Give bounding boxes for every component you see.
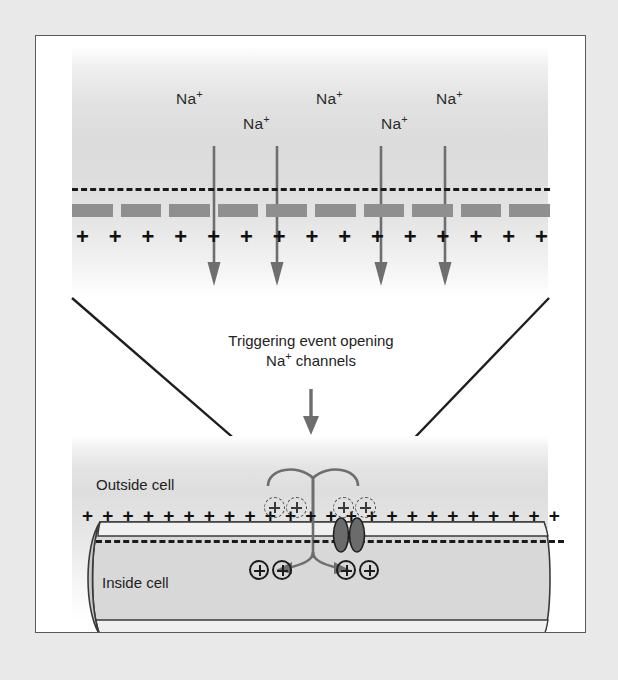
positive-charge-symbol: + (535, 226, 548, 248)
na-ion-label: Na+ (316, 90, 343, 108)
membrane-band-top (72, 204, 550, 217)
membrane-segment (72, 204, 113, 217)
positive-charge-symbol: + (549, 506, 560, 525)
trigger-event-arrow (298, 389, 324, 437)
positive-charge-symbol: + (488, 506, 499, 525)
positive-charge-symbol: + (468, 506, 479, 525)
sodium-influx-arrow (374, 146, 388, 288)
positive-charge-symbol: + (82, 506, 93, 525)
positive-charge-symbol: + (109, 226, 122, 248)
na-ion-label: Na+ (381, 115, 408, 133)
trigger-event-caption: Triggering event opening Na+ channels (166, 331, 456, 372)
cell-inner-membrane-strip (96, 620, 548, 633)
top-membrane-negative-dash-line (72, 188, 550, 191)
na-ion-label: Na+ (176, 90, 203, 108)
membrane-segment (169, 204, 210, 217)
positive-charge-symbol: + (273, 226, 286, 248)
positive-charge-symbol: + (163, 506, 174, 525)
magnified-membrane-panel (72, 46, 548, 298)
membrane-segment (266, 204, 307, 217)
membrane-segment (461, 204, 502, 217)
positive-charge-symbol: + (386, 506, 397, 525)
outside-cell-label: Outside cell (96, 476, 174, 493)
na-ion-label: Na+ (436, 90, 463, 108)
membrane-segment (412, 204, 453, 217)
membrane-segment (364, 204, 405, 217)
sodium-ion-outside (333, 497, 354, 518)
positive-charge-symbol: + (502, 226, 515, 248)
positive-charge-symbol: + (437, 226, 450, 248)
positive-charge-symbol: + (338, 226, 351, 248)
trigger-caption-line-2: Na+ channels (166, 351, 456, 371)
positive-charge-symbol: + (407, 506, 418, 525)
positive-charge-symbol: + (469, 226, 482, 248)
positive-charge-symbol: + (102, 506, 113, 525)
sodium-ion-outside (286, 497, 307, 518)
positive-charge-symbol: + (204, 506, 215, 525)
sodium-influx-arrow (270, 146, 284, 288)
sodium-channel-protein (332, 517, 366, 553)
positive-charge-symbol: + (305, 506, 316, 525)
positive-charge-symbol: + (244, 506, 255, 525)
positive-charge-symbol: + (207, 226, 220, 248)
positive-charge-symbol: + (183, 506, 194, 525)
membrane-segment (218, 204, 259, 217)
positive-charge-symbol: + (404, 226, 417, 248)
sodium-ion-inside (336, 560, 356, 580)
positive-charge-symbol: + (371, 226, 384, 248)
positive-charge-symbol: + (143, 506, 154, 525)
positive-charge-symbol: + (529, 506, 540, 525)
figure-frame: Na+ Na+ Na+ Na+ Na+ (35, 35, 586, 633)
positive-charge-symbol: + (240, 226, 253, 248)
positive-charge-symbol: + (224, 506, 235, 525)
sodium-ion-outside (355, 497, 376, 518)
membrane-segment (121, 204, 162, 217)
sodium-ion-inside (272, 560, 292, 580)
sodium-ion-inside (249, 560, 269, 580)
positive-charge-symbol: + (174, 226, 187, 248)
sodium-influx-arrow (207, 146, 221, 288)
membrane-segment (509, 204, 550, 217)
positive-charge-symbol: + (305, 226, 318, 248)
sodium-ion-inside (359, 560, 379, 580)
positive-charge-symbol: + (76, 226, 89, 248)
positive-charge-symbol: + (142, 226, 155, 248)
positive-charge-symbol: + (447, 506, 458, 525)
na-ion-label: Na+ (243, 115, 270, 133)
top-membrane-positive-charge-row: +++++++++++++++ (76, 226, 548, 248)
positive-charge-symbol: + (123, 506, 134, 525)
trigger-caption-line-1: Triggering event opening (166, 331, 456, 351)
positive-charge-symbol: + (508, 506, 519, 525)
positive-charge-symbol: + (427, 506, 438, 525)
sodium-influx-arrow (438, 146, 452, 288)
inside-cell-label: Inside cell (102, 574, 169, 591)
cell-inner-negative-dash-line (96, 540, 564, 543)
membrane-segment (315, 204, 356, 217)
sodium-ion-outside (264, 497, 285, 518)
cell-outer-positive-charge-row: ++++++++++++++++++++++++ (82, 506, 560, 525)
